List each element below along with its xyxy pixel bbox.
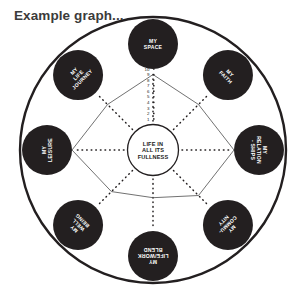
bubble-my-faith[interactable]: MYFAITH [203, 50, 253, 100]
example-graph-figure: Example graph... 10987654321 MYSPACEMYFA… [0, 0, 303, 293]
bubble-my-well-being[interactable]: MYWELLBEING [53, 200, 103, 250]
bubble-my-community[interactable]: MYCOMMU-NITY [203, 200, 253, 250]
axis-tick-mark-3 [153, 107, 155, 109]
page-title: Example graph... [14, 8, 124, 23]
axis-tick-mark-4 [153, 101, 155, 103]
axis-tick-mark-7 [153, 85, 155, 87]
bubble-my-life-journey[interactable]: MYLIFEJOURNEY [53, 50, 103, 100]
bubble-my-relationships[interactable]: MYRELATION- SHIPS [234, 125, 284, 175]
axis-tick-mark-5 [153, 96, 155, 98]
axis-tick-mark-9 [153, 74, 155, 76]
radar-chart: 10987654321 MYSPACEMYFAITHMYRELATION- SH… [0, 0, 303, 293]
bubble-my-leisure[interactable]: MYLEISURE [22, 125, 72, 175]
axis-tick-mark-2 [153, 113, 155, 115]
bubble-my-space[interactable]: MYSPACE [128, 19, 178, 69]
axis-tick-mark-6 [153, 90, 155, 92]
bubble-my-life-work-blend[interactable]: MYLIFE/WORKBLEND [128, 231, 178, 281]
axis-tick-mark-1 [153, 118, 155, 120]
axis-tick-mark-8 [153, 79, 155, 81]
